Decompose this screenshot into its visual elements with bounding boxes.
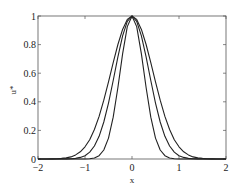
y-axis-label: u* <box>8 85 18 95</box>
x-axis-label: x <box>130 175 135 185</box>
x-tick-label: 1 <box>177 162 182 173</box>
x-tick-label: 2 <box>224 162 229 173</box>
y-tick-label: 0.2 <box>24 125 37 136</box>
y-tick-label: 0.6 <box>24 68 37 79</box>
x-tick-label: 0 <box>130 162 135 173</box>
y-tick-label: 0.8 <box>24 39 37 50</box>
plot-area <box>38 16 226 159</box>
y-tick-label: 1 <box>31 11 36 22</box>
y-tick-label: 0.4 <box>24 96 37 107</box>
x-tick-label: −1 <box>80 162 91 173</box>
line-chart: −2−1012 00.20.40.60.81 x u* <box>0 0 239 189</box>
y-tick-label: 0 <box>31 154 36 165</box>
